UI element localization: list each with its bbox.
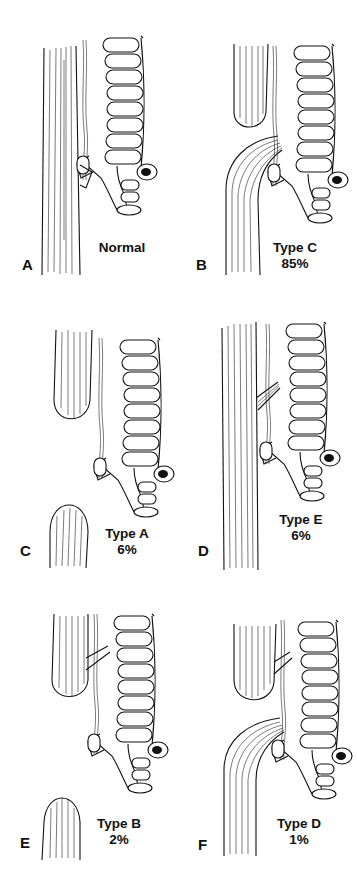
type-name: Normal — [92, 240, 152, 256]
panel-letter: E — [20, 834, 30, 851]
panel-e: E Type B 2% — [0, 590, 178, 875]
type-name: Type D — [264, 816, 334, 832]
type-label: Type B 2% — [86, 816, 152, 848]
type-name: Type A — [94, 526, 160, 542]
panel-letter: B — [196, 256, 207, 273]
type-percent: 6% — [94, 542, 160, 558]
type-name: Type E — [266, 512, 336, 528]
type-label: Type A 6% — [94, 526, 160, 558]
panel-b: B Type C 85% — [178, 0, 356, 290]
panel-letter: A — [22, 256, 33, 273]
panel-f: F Type D 1% — [178, 590, 356, 875]
type-name: Type B — [86, 816, 152, 832]
type-label: Type C 85% — [260, 240, 330, 272]
panel-d: D Type E 6% — [178, 290, 356, 590]
type-percent: 85% — [260, 256, 330, 272]
panel-letter: D — [198, 542, 209, 559]
type-percent: 2% — [86, 832, 152, 848]
type-label: Type E 6% — [266, 512, 336, 544]
panel-letter: F — [198, 836, 207, 853]
type-label: Type D 1% — [264, 816, 334, 848]
panel-letter: C — [20, 542, 31, 559]
type-label: Normal — [92, 240, 152, 256]
panel-a: A Normal — [0, 0, 178, 290]
type-name: Type C — [260, 240, 330, 256]
panel-c: C Type A 6% — [0, 290, 178, 590]
type-percent: 1% — [264, 832, 334, 848]
type-percent: 6% — [266, 528, 336, 544]
